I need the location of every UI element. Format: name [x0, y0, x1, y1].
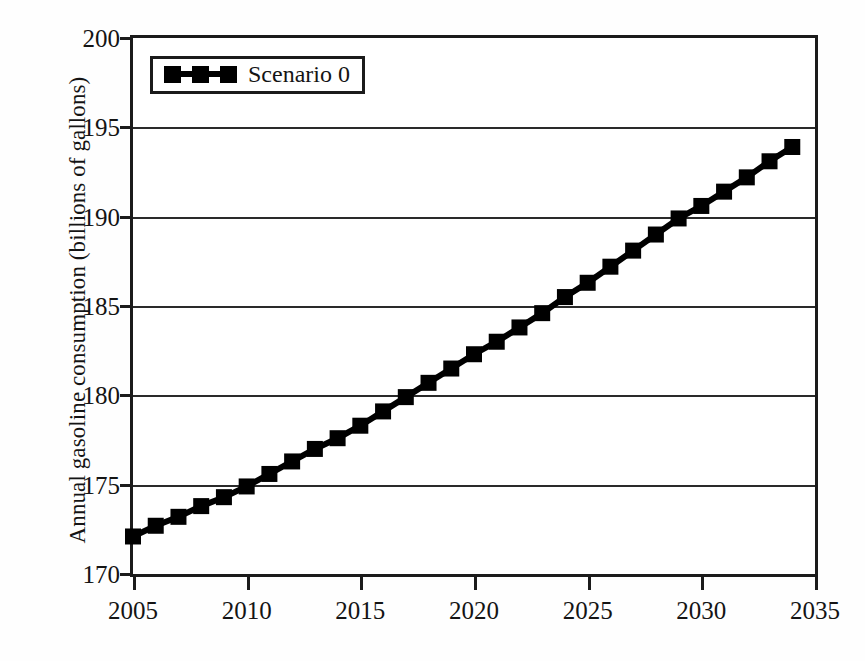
data-point-marker [693, 198, 709, 214]
chart-figure: Annual gasoline consumption (billions of… [0, 0, 865, 661]
y-tick-mark-170 [120, 573, 130, 576]
x-tick-mark-2025 [588, 577, 591, 590]
y-tick-mark-175 [120, 484, 130, 487]
data-point-marker [739, 169, 755, 185]
y-tick-label-170: 170 [18, 562, 130, 587]
x-tick-label-2035: 2035 [755, 596, 865, 626]
data-point-marker [534, 305, 550, 321]
data-point-marker [148, 518, 164, 534]
data-point-marker [193, 498, 209, 514]
data-point-marker [284, 453, 300, 469]
data-point-marker [421, 375, 437, 391]
data-point-marker [784, 139, 800, 155]
data-point-marker [557, 289, 573, 305]
data-point-marker [671, 210, 687, 226]
y-tick-label-190: 190 [18, 204, 130, 229]
x-tick-mark-2015 [360, 577, 363, 590]
plot-inner [133, 38, 815, 574]
x-tick-label-2020: 2020 [414, 596, 534, 626]
data-point-marker [352, 418, 368, 434]
legend: Scenario 0 [150, 56, 365, 94]
y-tick-mark-200 [120, 37, 130, 40]
y-tick-label-180: 180 [18, 383, 130, 408]
data-point-marker [170, 509, 186, 525]
data-point-marker [216, 489, 232, 505]
data-point-marker [511, 319, 527, 335]
legend-label-scenario-0: Scenario 0 [248, 62, 350, 86]
x-tick-mark-2035 [815, 577, 818, 590]
data-point-marker [625, 243, 641, 259]
data-point-marker [307, 441, 323, 457]
x-tick-label-2015: 2015 [300, 596, 420, 626]
x-tick-mark-2030 [701, 577, 704, 590]
data-point-marker [330, 430, 346, 446]
x-tick-label-2030: 2030 [641, 596, 761, 626]
data-point-marker [602, 259, 618, 275]
x-tick-label-2005: 2005 [73, 596, 193, 626]
y-tick-label-200: 200 [18, 26, 130, 51]
data-point-marker [261, 466, 277, 482]
y-tick-mark-185 [120, 305, 130, 308]
y-tick-mark-195 [120, 126, 130, 129]
data-point-marker [125, 528, 141, 544]
data-point-marker [648, 227, 664, 243]
x-axis-tick-labels: 2005201020152020202520302035 [0, 596, 865, 636]
x-tick-label-2010: 2010 [187, 596, 307, 626]
x-tick-mark-2005 [133, 577, 136, 590]
data-point-marker [489, 334, 505, 350]
x-axis-tick-marks [130, 577, 818, 591]
y-axis-tick-labels: 200195190185180175170 [0, 35, 130, 577]
data-point-marker [762, 153, 778, 169]
data-point-marker [398, 389, 414, 405]
y-tick-mark-190 [120, 216, 130, 219]
x-tick-mark-2020 [474, 577, 477, 590]
data-point-marker [466, 346, 482, 362]
plot-area: Scenario 0 [130, 35, 818, 577]
y-tick-label-195: 195 [18, 115, 130, 140]
data-point-marker [443, 361, 459, 377]
x-tick-label-2025: 2025 [528, 596, 648, 626]
data-point-marker [375, 403, 391, 419]
legend-marker-icon [162, 63, 240, 85]
x-tick-mark-2010 [247, 577, 250, 590]
data-point-marker [580, 275, 596, 291]
series-layer [133, 38, 815, 574]
y-tick-label-175: 175 [18, 472, 130, 497]
y-tick-label-185: 185 [18, 294, 130, 319]
data-point-marker [239, 478, 255, 494]
y-tick-mark-180 [120, 394, 130, 397]
data-point-marker [716, 184, 732, 200]
